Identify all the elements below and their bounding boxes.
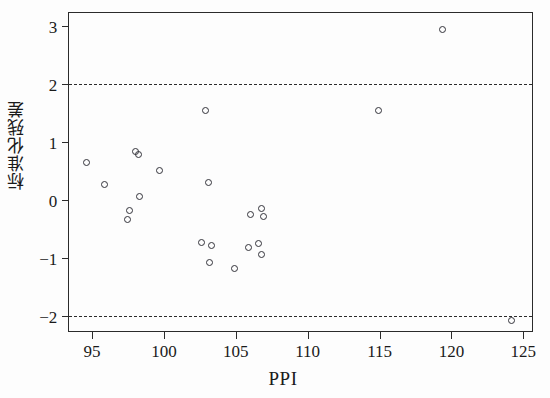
y-tick-mark: 0 [62, 200, 69, 201]
x-tick-mark [236, 331, 237, 339]
x-tick-label: 115 [367, 343, 392, 360]
reference-line-upper [69, 84, 532, 85]
scatter-plot-figure: 标准化残差 3210−1−2 95100105110115120125 PPI [0, 0, 550, 398]
data-point [206, 259, 213, 266]
data-point [198, 239, 205, 246]
reference-line-lower [69, 316, 532, 317]
data-point [255, 240, 262, 247]
y-tick-label: 3 [49, 18, 57, 35]
data-point [101, 181, 108, 188]
y-tick-mark: −1 [62, 258, 69, 259]
x-tick-mark [92, 331, 93, 339]
x-tick-mark [308, 331, 309, 339]
x-tick-label: 110 [295, 343, 320, 360]
x-axis-title: PPI [0, 368, 550, 390]
data-point [126, 207, 133, 214]
data-point [439, 26, 446, 33]
x-tick-label: 120 [439, 343, 465, 360]
data-point [83, 159, 90, 166]
data-point [375, 107, 382, 114]
x-tick-mark [380, 331, 381, 339]
data-point [508, 317, 515, 324]
y-tick-label: −2 [39, 309, 57, 326]
data-point [202, 107, 209, 114]
y-axis-title: 标准化残差 [6, 100, 28, 190]
y-tick-label: 1 [49, 135, 57, 152]
y-tick-label: 0 [49, 193, 57, 210]
plot-frame: 3210−1−2 95100105110115120125 [68, 12, 533, 332]
plot-area [69, 13, 532, 331]
y-tick-mark: 3 [62, 26, 69, 27]
x-tick-label: 125 [511, 343, 537, 360]
data-point [247, 211, 254, 218]
data-point [258, 205, 265, 212]
data-point [245, 244, 252, 251]
y-tick-mark: 2 [62, 84, 69, 85]
data-point [156, 167, 163, 174]
data-point [231, 265, 238, 272]
x-tick-label: 95 [84, 343, 101, 360]
data-point [124, 216, 131, 223]
data-point [205, 179, 212, 186]
data-point [258, 251, 265, 258]
y-tick-label: −1 [39, 251, 57, 268]
x-axis-title-text: PPI [269, 368, 298, 390]
data-point [135, 151, 142, 158]
x-tick-label: 100 [151, 343, 177, 360]
y-tick-mark: −2 [62, 316, 69, 317]
x-tick-mark [523, 331, 524, 339]
x-tick-mark [164, 331, 165, 339]
data-point [208, 242, 215, 249]
y-tick-mark: 1 [62, 142, 69, 143]
y-tick-label: 2 [49, 76, 57, 93]
x-tick-mark [451, 331, 452, 339]
x-tick-label: 105 [223, 343, 249, 360]
data-point [136, 193, 143, 200]
data-point [260, 213, 267, 220]
